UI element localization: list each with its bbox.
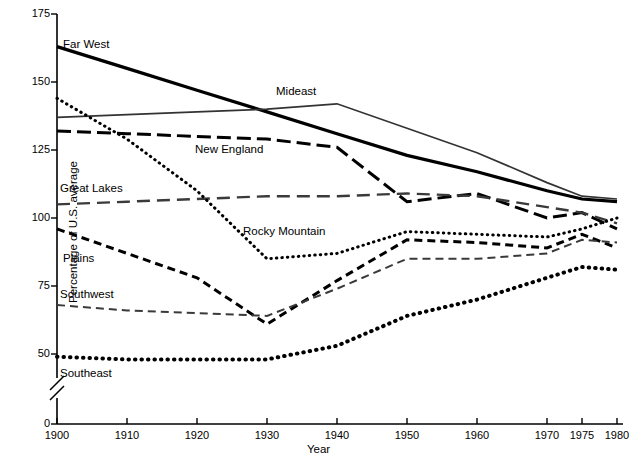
series-line-great-lakes	[57, 194, 617, 224]
y-axis-title: Percentage of U.S. average	[67, 161, 79, 303]
x-tick-label: 1910	[105, 430, 149, 441]
x-tick-label: 1940	[315, 430, 359, 441]
y-tick-label: 150	[10, 76, 50, 87]
y-tick-label: 75	[10, 280, 50, 291]
series-label-southeast: Southeast	[60, 367, 112, 379]
y-tick-label: 0	[10, 418, 50, 429]
axis-lines	[50, 14, 623, 424]
x-tick-label: 1950	[385, 430, 429, 441]
y-axis-break-icon	[50, 376, 64, 400]
x-tick-label: 1920	[175, 430, 219, 441]
series-line-plains	[57, 229, 617, 324]
series-label-new-england: New England	[195, 143, 263, 155]
x-tick-label: 1980	[595, 430, 637, 441]
x-tick-label: 1900	[35, 430, 79, 441]
series-line-new-england	[57, 131, 617, 229]
series-label-rocky-mountain: Rocky Mountain	[243, 225, 325, 237]
series-label-mideast: Mideast	[276, 85, 316, 97]
series-line-mideast	[57, 104, 617, 199]
series-line-southwest	[57, 240, 617, 316]
y-tick-label: 100	[10, 212, 50, 223]
regional-income-line-chart: 05075100125150175 1900191019201930194019…	[0, 0, 637, 463]
x-tick-label: 1960	[455, 430, 499, 441]
y-tick-label: 125	[10, 144, 50, 155]
x-tick-label: 1930	[245, 430, 289, 441]
series-line-far-west	[57, 47, 617, 202]
series-line-rocky-mountain	[57, 98, 617, 258]
series-label-far-west: Far West	[63, 38, 109, 50]
x-axis-title: Year	[0, 443, 637, 455]
y-tick-label: 50	[10, 348, 50, 359]
x-axis-ticks	[57, 418, 617, 424]
data-series-group	[57, 47, 617, 360]
y-axis-ticks	[51, 14, 57, 424]
y-tick-label: 175	[10, 8, 50, 19]
